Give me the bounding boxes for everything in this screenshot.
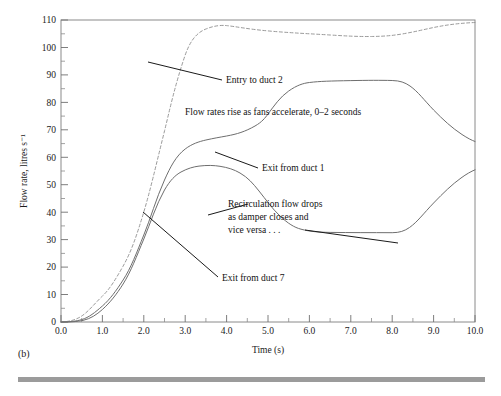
y-tick-label: 10 xyxy=(47,290,57,300)
leader-line-exit-duct-1 xyxy=(215,152,258,168)
x-axis-ticks xyxy=(61,315,475,322)
annotation-exit-duct-1: Exit from duct 1 xyxy=(262,163,325,173)
annotation-fans-accelerate: Flow rates rise as fans accelerate, 0–2 … xyxy=(185,107,362,117)
y-tick-label: 30 xyxy=(47,235,57,245)
annotation-recirculation-line-2: as damper closes and xyxy=(228,212,309,222)
series-line-exit-duct-7 xyxy=(61,165,475,322)
x-tick-label: 0.0 xyxy=(55,326,67,336)
y-tick-label: 60 xyxy=(47,153,57,163)
annotation-recirculation-line-3: vice versa . . . xyxy=(228,225,281,235)
panel-label: (b) xyxy=(18,348,30,360)
x-tick-label: 2.0 xyxy=(138,326,150,336)
x-tick-label: 3.0 xyxy=(179,326,191,336)
chart-svg: 0 10 20 30 40 50 60 70 80 90 100 110 Flo… xyxy=(0,0,501,396)
y-axis-title: Flow rate, litres s⁻¹ xyxy=(19,134,29,208)
y-tick-label: 50 xyxy=(47,180,57,190)
x-tick-label: 6.0 xyxy=(303,326,315,336)
leader-line-entry-duct-2 xyxy=(148,62,222,80)
x-tick-label: 7.0 xyxy=(345,326,357,336)
annotation-entry-duct-2: Entry to duct 2 xyxy=(226,75,283,85)
bottom-rule-bar xyxy=(18,377,485,382)
y-axis-ticks xyxy=(61,20,68,322)
x-tick-label: 4.0 xyxy=(221,326,233,336)
x-axis-title: Time (s) xyxy=(252,345,284,356)
y-tick-label: 20 xyxy=(47,262,57,272)
x-tick-label: 8.0 xyxy=(386,326,398,336)
y-tick-label: 80 xyxy=(47,98,57,108)
y-tick-label: 90 xyxy=(47,70,57,80)
annotation-recirculation: Recirculation flow drops as damper close… xyxy=(228,199,323,235)
x-axis-tick-labels: 0.0 1.0 2.0 3.0 4.0 5.0 6.0 7.0 8.0 9.0 … xyxy=(55,326,484,336)
y-tick-label: 40 xyxy=(47,208,57,218)
annotation-recirculation-line-1: Recirculation flow drops xyxy=(228,199,323,209)
annotation-exit-duct-7: Exit from duct 7 xyxy=(222,273,285,283)
leader-line-exit-duct-7 xyxy=(143,212,218,277)
y-tick-label: 100 xyxy=(42,43,57,53)
y-tick-label: 70 xyxy=(47,125,57,135)
y-axis-tick-labels: 0 10 20 30 40 50 60 70 80 90 100 110 xyxy=(42,15,57,327)
figure-panel-b: 0 10 20 30 40 50 60 70 80 90 100 110 Flo… xyxy=(0,0,501,396)
y-tick-label: 110 xyxy=(42,15,56,25)
leader-line-recirculation-right xyxy=(305,230,398,243)
x-tick-label: 10.0 xyxy=(467,326,484,336)
x-tick-label: 9.0 xyxy=(428,326,440,336)
x-tick-label: 1.0 xyxy=(96,326,108,336)
x-tick-label: 5.0 xyxy=(262,326,274,336)
